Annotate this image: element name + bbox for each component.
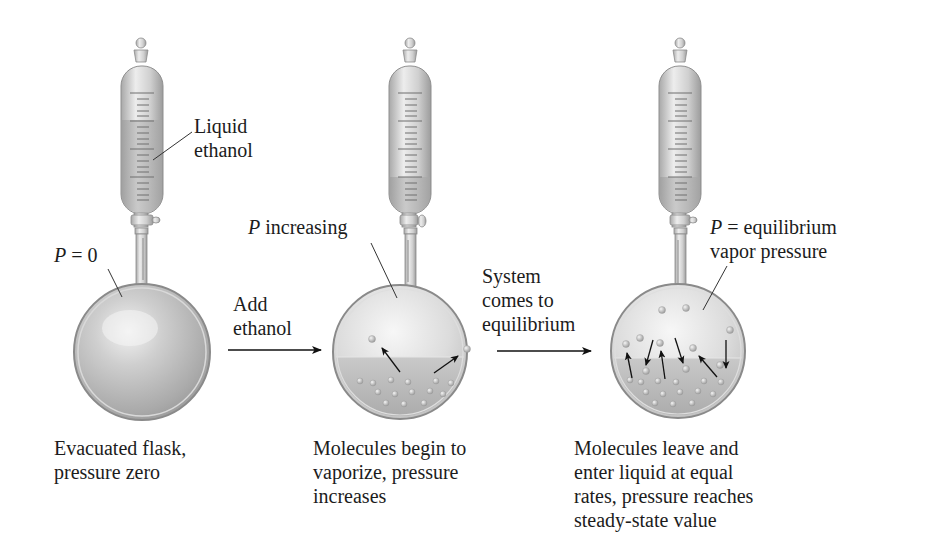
burette-1 — [121, 38, 163, 290]
transition-label-add-ethanol: Add ethanol — [233, 292, 292, 340]
pressure-value: = equilibrium — [722, 216, 837, 238]
caption-stage-1: Evacuated flask, pressure zero — [54, 436, 186, 484]
pressure-variable: P — [710, 216, 722, 238]
pressure-value: increasing — [260, 216, 347, 238]
flask-3-equilibrium — [608, 284, 748, 428]
flask-1-evacuated — [74, 284, 210, 420]
pressure-value-line2: vapor pressure — [710, 239, 837, 263]
caption-stage-2: Molecules begin to vaporize, pressure in… — [313, 436, 466, 508]
flask-2-vaporizing — [330, 285, 471, 427]
burette-2 — [389, 38, 431, 290]
transition-label-equilibrium: System comes to equilibrium — [482, 264, 575, 336]
pressure-label-1: P = 0 — [54, 243, 98, 267]
burette-3 — [659, 38, 701, 290]
pressure-variable: P — [54, 244, 66, 266]
liquid-ethanol-label: Liquid ethanol — [194, 114, 253, 162]
pressure-value: = 0 — [66, 244, 97, 266]
pressure-label-2: P increasing — [248, 215, 347, 239]
pressure-variable: P — [248, 216, 260, 238]
pressure-label-3: P = equilibrium vapor pressure — [710, 215, 837, 263]
caption-stage-3: Molecules leave and enter liquid at equa… — [574, 436, 753, 532]
